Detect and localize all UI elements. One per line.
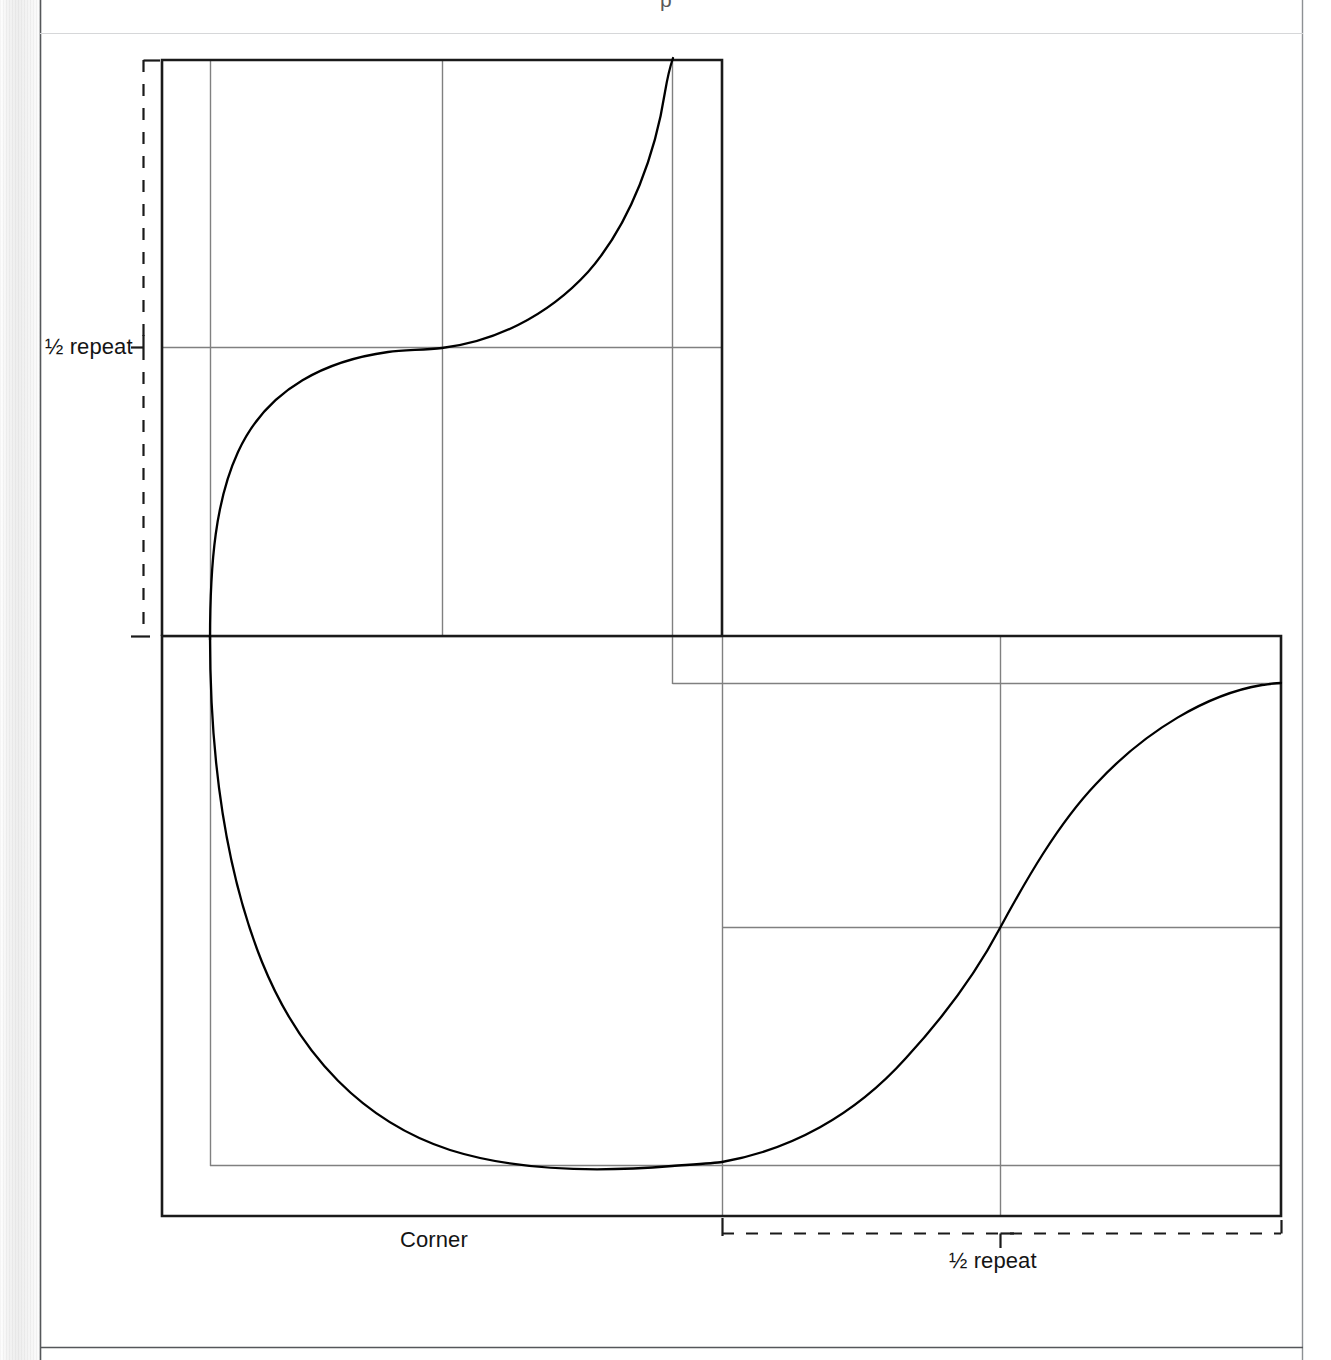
clipped-caption-fragment-top: p xyxy=(660,0,672,12)
label-corner: Corner xyxy=(400,1229,468,1251)
diagram-svg xyxy=(0,0,1331,1360)
page-border-lines xyxy=(40,0,1303,1360)
label-half-repeat-horizontal: ½ repeat xyxy=(949,1250,1037,1272)
corner-repeat-diagram xyxy=(0,0,1331,1360)
label-half-repeat-vertical: ½ repeat xyxy=(45,336,133,358)
lower-panel-outline xyxy=(162,636,1281,1216)
transition-curve-upper xyxy=(210,58,673,640)
dimension-horizontal-half-repeat xyxy=(722,1218,1282,1248)
transition-curve-lower xyxy=(210,636,1281,1169)
dimension-vertical-half-repeat xyxy=(131,60,160,637)
